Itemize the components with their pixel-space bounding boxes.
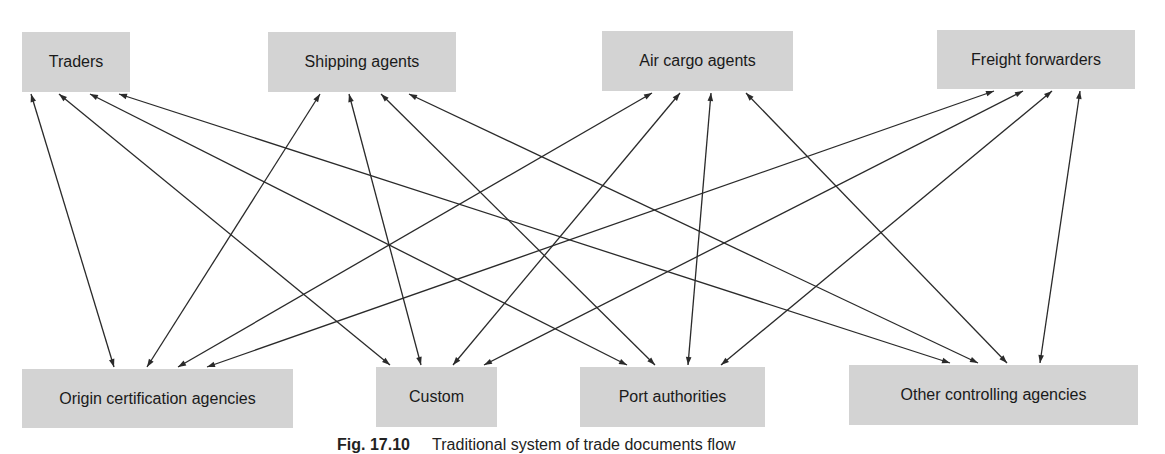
figure-caption-text: Traditional system of trade documents fl… — [432, 436, 736, 453]
arrow-aircargo-other — [746, 93, 1007, 363]
arrow-shipping-other — [409, 94, 978, 363]
node-origin: Origin certification agencies — [22, 369, 293, 428]
node-freight: Freight forwarders — [937, 30, 1135, 89]
node-port: Port authorities — [580, 367, 765, 427]
node-label: Custom — [409, 388, 464, 406]
arrow-freight-other — [1040, 91, 1080, 363]
node-label: Origin certification agencies — [59, 390, 256, 408]
arrow-freight-port — [721, 91, 1052, 365]
node-other: Other controlling agencies — [849, 365, 1138, 425]
figure-label: Fig. 17.10 — [337, 436, 410, 453]
node-traders: Traders — [22, 32, 130, 92]
node-label: Air cargo agents — [639, 52, 756, 70]
node-label: Shipping agents — [305, 53, 420, 71]
arrow-traders-custom — [59, 94, 390, 365]
node-aircargo: Air cargo agents — [602, 31, 793, 91]
arrow-traders-origin — [31, 94, 114, 367]
node-custom: Custom — [376, 367, 497, 427]
node-label: Port authorities — [619, 388, 727, 406]
arrow-shipping-origin — [147, 94, 320, 367]
arrow-aircargo-custom — [453, 93, 680, 365]
arrow-aircargo-port — [688, 93, 711, 365]
arrow-traders-port — [90, 94, 627, 365]
arrow-shipping-port — [381, 94, 655, 365]
figure-caption: Fig. 17.10 Traditional system of trade d… — [337, 436, 736, 454]
arrow-freight-origin — [207, 91, 994, 367]
arrow-freight-custom — [484, 91, 1023, 365]
node-label: Traders — [49, 53, 104, 71]
arrow-traders-other — [119, 94, 950, 363]
arrow-aircargo-origin — [178, 93, 652, 367]
node-label: Other controlling agencies — [901, 386, 1087, 404]
node-shipping: Shipping agents — [268, 32, 456, 92]
node-label: Freight forwarders — [971, 51, 1101, 69]
